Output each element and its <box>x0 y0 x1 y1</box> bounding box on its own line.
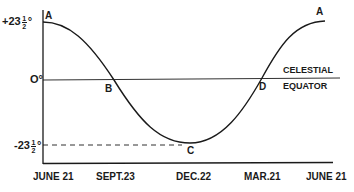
y-label-value: +23 <box>2 15 21 27</box>
celestial-equator-line <box>43 78 340 80</box>
x-label-mar21: MAR.21 <box>244 172 281 182</box>
point-label-a-end: A <box>316 7 323 17</box>
degree-symbol: ° <box>37 139 41 151</box>
fraction-half: 12 <box>22 15 27 30</box>
y-label-plus-23-5: +2312° <box>2 15 32 30</box>
y-label-value: -23 <box>14 139 30 151</box>
point-label-b: B <box>105 84 112 94</box>
x-label-june21-end: JUNE 21 <box>306 172 347 182</box>
x-axis <box>43 163 333 164</box>
fraction-numerator: 1 <box>31 139 35 146</box>
x-label-june21-start: JUNE 21 <box>33 172 74 182</box>
fraction-denominator: 2 <box>31 147 35 154</box>
point-label-d: D <box>259 82 266 92</box>
fraction-half: 12 <box>31 139 36 154</box>
x-label-dec22: DEC.22 <box>176 172 211 182</box>
y-label-zero: O° <box>30 74 43 85</box>
fraction-numerator: 1 <box>22 15 26 22</box>
x-label-sept23: SEPT.23 <box>96 172 135 182</box>
equator-label-line2: EQUATOR <box>283 82 327 91</box>
point-label-a-start: A <box>45 11 52 21</box>
fraction-denominator: 2 <box>22 23 26 30</box>
declination-diagram <box>0 0 354 192</box>
y-label-minus-23-5: -2312° <box>14 139 41 154</box>
degree-symbol: ° <box>28 15 32 27</box>
equator-label-line1: CELESTIAL <box>283 66 333 75</box>
point-label-c: C <box>187 146 194 156</box>
